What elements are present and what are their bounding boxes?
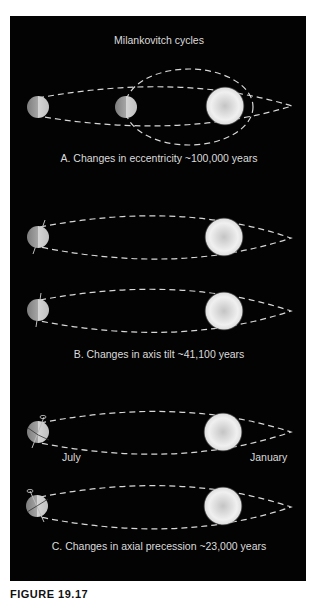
section-b-axis-tilt (27, 216, 291, 333)
sun-icon (203, 412, 243, 452)
sun-icon (205, 86, 245, 126)
month-label-january: January (250, 451, 287, 463)
orbit (40, 486, 291, 529)
earth-icon (27, 96, 49, 118)
orbit (40, 411, 291, 454)
sun-icon (203, 486, 243, 526)
figure-title: Milankovitch cycles (0, 34, 318, 46)
section-a-eccentricity (27, 69, 292, 145)
sun-icon (204, 217, 244, 257)
section-c-label: C. Changes in axial precession ~23,000 y… (0, 540, 318, 552)
section-b-label: B. Changes in axis tilt ~41,100 years (0, 348, 318, 360)
earth-icon (115, 96, 137, 118)
section-c-precession (26, 411, 291, 528)
month-label-july: July (62, 451, 81, 463)
elliptical-orbit (38, 87, 292, 126)
earth-icon (27, 226, 49, 248)
orbit (40, 216, 291, 259)
figure-caption: FIGURE 19.17 (10, 588, 88, 600)
section-a-label: A. Changes in eccentricity ~100,000 year… (0, 152, 318, 164)
orbit (40, 289, 291, 332)
earth-icon (27, 299, 49, 321)
precession-circle-icon (40, 415, 46, 418)
sun-icon (204, 291, 244, 331)
